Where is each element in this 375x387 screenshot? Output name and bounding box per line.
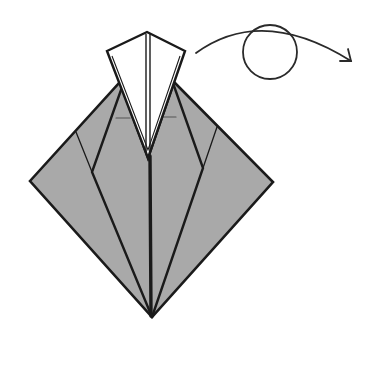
center-line xyxy=(150,156,151,316)
turn-over-symbol xyxy=(196,25,351,79)
origami-diagram: origami-step xyxy=(0,0,375,387)
diagram-canvas xyxy=(0,0,375,387)
turn-over-arc xyxy=(196,31,351,61)
